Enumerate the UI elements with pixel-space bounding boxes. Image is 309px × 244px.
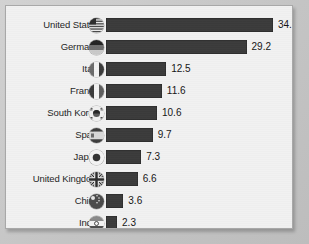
chart-row: India 2.3 [6,213,291,229]
bar [106,62,166,76]
chart-frame: United States 34.7Germany 29.2Italy [5,5,293,229]
bar [106,216,117,229]
bar [106,128,153,142]
bar-value-label: 34.7 [278,15,293,35]
bar-value-label: 9.7 [158,125,172,145]
chart-row: United Kingdom 6.6 [6,169,291,189]
flag-italy-icon [89,62,104,77]
bar [106,172,138,186]
flag-south-korea-icon [89,106,104,121]
bar-value-label: 12.5 [171,59,190,79]
flag-germany-icon [89,40,104,55]
bar-value-label: 6.6 [143,169,157,189]
chart-row: South Korea 10.6 [6,103,291,123]
screenshot-root: United States 34.7Germany 29.2Italy [0,0,309,244]
bar-value-label: 29.2 [252,37,271,57]
bar [106,106,157,120]
bar-chart-plot-area: United States 34.7Germany 29.2Italy [6,6,291,227]
chart-row: Italy 12.5 [6,59,291,79]
flag-france-icon [89,84,104,99]
bar-value-label: 10.6 [162,103,181,123]
chart-row: France 11.6 [6,81,291,101]
flag-united-kingdom-icon [89,172,104,187]
chart-row: Spain 9.7 [6,125,291,145]
chart-row: Japan 7.3 [6,147,291,167]
bar [106,150,141,164]
bar-value-label: 11.6 [167,81,186,101]
chart-row: China 3.6 [6,191,291,211]
bar-value-label: 7.3 [146,147,160,167]
chart-row: United States 34.7 [6,15,291,35]
flag-spain-icon [89,128,104,143]
chart-row: Germany 29.2 [6,37,291,57]
flag-united-states-icon [89,18,104,33]
flag-india-icon [89,216,104,229]
bar-value-label: 3.6 [128,191,142,211]
bar [106,40,247,54]
bar-value-label: 2.3 [122,213,136,229]
bar [106,84,162,98]
bar [106,18,273,32]
flag-china-icon [89,194,104,209]
flag-japan-icon [89,150,104,165]
bar [106,194,123,208]
